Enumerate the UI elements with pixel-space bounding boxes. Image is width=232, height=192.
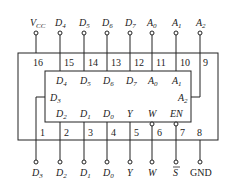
- inner-label-d3: D3: [49, 92, 61, 105]
- bottom-pin-numbers: 1 2 3 4 5 6 7 8: [40, 127, 202, 138]
- w-inversion-bubble: [150, 122, 154, 126]
- svg-text:GND: GND: [190, 167, 212, 178]
- svg-text:2: 2: [64, 127, 69, 138]
- svg-text:Y: Y: [127, 108, 134, 119]
- svg-text:D1: D1: [79, 108, 91, 121]
- svg-text:5: 5: [134, 127, 139, 138]
- top-pin-numbers: 16 15 14 13 12 11 10 9: [33, 57, 208, 68]
- svg-text:9: 9: [203, 57, 208, 68]
- svg-text:D4: D4: [55, 75, 67, 88]
- svg-text:6: 6: [157, 127, 162, 138]
- ic-pinout-diagram: VCC D4 D5 D6 D7 A0 A1 A2 16 15 14 13 12 …: [0, 0, 232, 192]
- svg-text:D2: D2: [55, 108, 67, 121]
- svg-text:S: S: [173, 167, 178, 178]
- svg-text:D6: D6: [102, 75, 114, 88]
- bottom-external-labels: D3 D2 D1 D0 Y W S GND: [31, 167, 212, 180]
- svg-text:D7: D7: [125, 75, 137, 88]
- svg-text:D3: D3: [31, 167, 43, 180]
- svg-text:4: 4: [111, 127, 116, 138]
- svg-text:D5: D5: [79, 75, 91, 88]
- svg-text:W: W: [148, 167, 158, 178]
- svg-text:11: 11: [156, 57, 166, 68]
- svg-text:13: 13: [111, 57, 121, 68]
- svg-text:W: W: [148, 108, 158, 119]
- bottom-terminals: [34, 160, 202, 164]
- svg-text:A2: A2: [195, 17, 206, 30]
- inner-top-labels: D4 D5 D6 D7 A0 A1: [55, 75, 182, 88]
- svg-text:D6: D6: [101, 17, 113, 30]
- svg-text:15: 15: [64, 57, 74, 68]
- svg-text:A1: A1: [171, 75, 182, 88]
- svg-text:16: 16: [33, 57, 43, 68]
- bottom-pin-wires: [36, 97, 200, 160]
- top-terminals: [34, 31, 202, 35]
- svg-text:D0: D0: [102, 108, 114, 121]
- svg-text:7: 7: [180, 127, 185, 138]
- svg-text:D2: D2: [55, 167, 67, 180]
- en-inversion-bubble: [174, 122, 178, 126]
- svg-text:10: 10: [180, 57, 190, 68]
- svg-text:VCC: VCC: [30, 17, 46, 30]
- svg-text:A0: A0: [146, 17, 157, 30]
- svg-text:D7: D7: [124, 17, 136, 30]
- svg-text:EN: EN: [169, 108, 184, 119]
- inner-label-a2: A2: [177, 92, 188, 105]
- svg-text:D0: D0: [102, 167, 114, 180]
- svg-text:3: 3: [88, 127, 93, 138]
- svg-text:D5: D5: [78, 17, 90, 30]
- svg-text:D1: D1: [79, 167, 91, 180]
- svg-text:D4: D4: [54, 17, 66, 30]
- svg-text:A0: A0: [147, 75, 158, 88]
- svg-text:8: 8: [197, 127, 202, 138]
- top-external-labels: VCC D4 D5 D6 D7 A0 A1 A2: [30, 17, 206, 30]
- svg-text:12: 12: [134, 57, 144, 68]
- svg-text:1: 1: [40, 127, 45, 138]
- svg-text:Y: Y: [127, 167, 134, 178]
- svg-text:A1: A1: [171, 17, 182, 30]
- inner-bottom-labels: D2 D1 D0 Y W EN: [55, 108, 184, 121]
- svg-text:14: 14: [88, 57, 98, 68]
